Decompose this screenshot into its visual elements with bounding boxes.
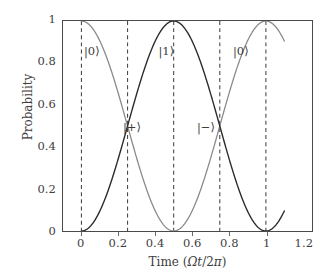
x-axis-label-omega: Ω (187, 255, 197, 269)
annotation-ketplus: |+⟩ (123, 121, 141, 133)
curve-p0-line (81, 21, 284, 231)
x-axis-label-suffix: ) (222, 255, 227, 269)
annotation-ketminus: |−⟩ (197, 121, 215, 133)
x-axis-label: Time (Ωt/2π) (62, 255, 313, 269)
y-tick-label-0.8: 0.8 (12, 56, 56, 68)
annotation-ket0-first: |0⟩ (84, 45, 100, 57)
y-tick-label-0: 0 (12, 226, 56, 238)
x-tick-mark-1 (267, 232, 268, 236)
x-axis-label-prefix: Time ( (149, 255, 188, 269)
y-tick-label-0.6: 0.6 (12, 99, 56, 111)
plot-area: |0⟩ |1⟩ |0⟩ |+⟩ |−⟩ (62, 20, 313, 232)
y-tick-label-0.2: 0.2 (12, 184, 56, 196)
x-tick-mark-0.6 (192, 232, 193, 236)
x-tick-mark-0.2 (118, 232, 119, 236)
curves-svg (63, 21, 312, 231)
y-tick-label-0.4: 0.4 (12, 141, 56, 153)
annotation-ket1: |1⟩ (159, 45, 175, 57)
curve-p1-line (81, 21, 284, 231)
x-tick-mark-0.8 (229, 232, 230, 236)
x-tick-label-1.2: 1.2 (282, 237, 326, 249)
annotation-ket0-second: |0⟩ (233, 45, 249, 57)
x-axis-label-pi: π (214, 255, 222, 269)
chart-figure: Probability 1 0.8 0.6 0.4 0.2 0 0 0.2 0.… (0, 0, 334, 279)
x-tick-mark-0.4 (155, 232, 156, 236)
x-axis-label-slash: /2 (202, 255, 214, 269)
x-tick-mark-0 (81, 232, 82, 236)
y-tick-label-1: 1 (12, 14, 56, 26)
